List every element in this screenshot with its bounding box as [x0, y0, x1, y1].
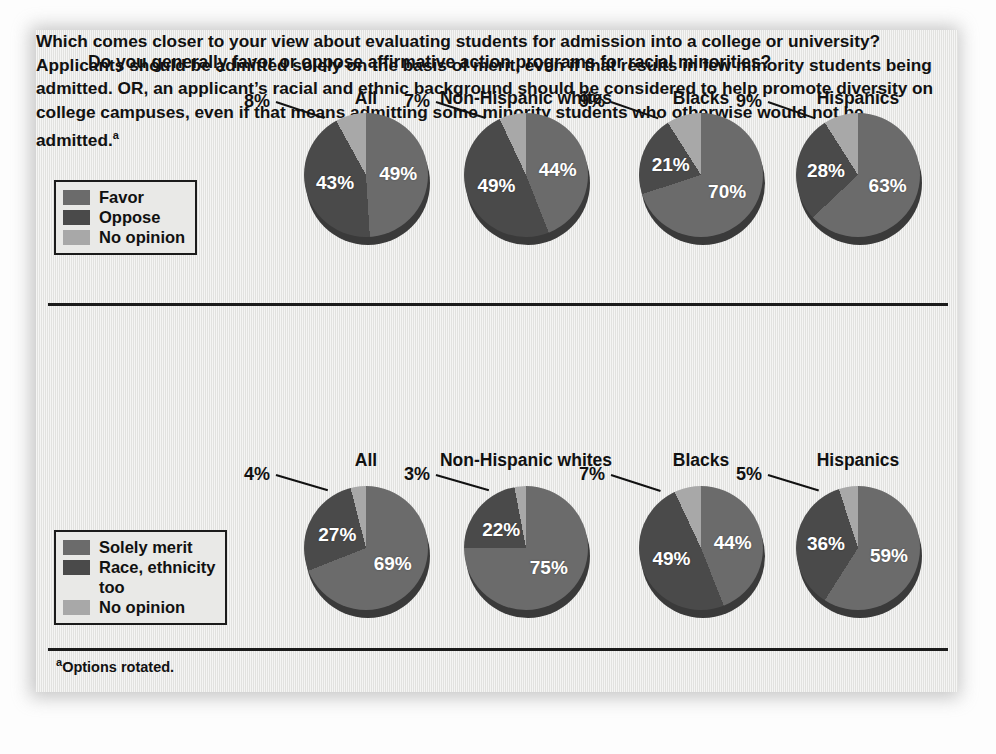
legend-admission-swatch-icon	[63, 600, 90, 615]
pie-admission-non-hispanic-whites	[464, 486, 588, 610]
pie-admission-all-no-opinion-leader-line	[276, 474, 329, 491]
pie-affirmative-hispanics-favor-value: 63%	[869, 175, 907, 197]
column-heading-all: All	[355, 88, 377, 109]
legend-affirmative-label: Oppose	[99, 208, 160, 227]
pie-admission-all-no-opinion-value: 4%	[244, 464, 270, 485]
pie-affirmative-blacks-no-opinion-value: 9%	[579, 91, 605, 112]
pie-affirmative-blacks-favor-value: 70%	[708, 181, 746, 203]
pie-affirmative-non-hispanic-whites-oppose-value: 49%	[477, 175, 515, 197]
question-1-title: Do you generally favor or oppose affirma…	[88, 52, 771, 73]
pie-affirmative-all-no-opinion-value: 8%	[244, 91, 270, 112]
legend-admission-item: too	[63, 578, 215, 597]
legend-affirmative-item: No opinion	[63, 228, 185, 247]
pie-affirmative-hispanics-no-opinion-value: 9%	[736, 91, 762, 112]
column-heading-blacks: Blacks	[673, 88, 729, 109]
pie-admission-hispanics-race-ethnicity-value: 36%	[807, 533, 845, 555]
legend-admission-swatch-icon	[63, 540, 90, 555]
pie-admission-non-hispanic-whites-no-opinion-value: 3%	[404, 464, 430, 485]
legend-affirmative-swatch-icon	[63, 190, 90, 205]
legend-admission-label: Race, ethnicity	[99, 558, 215, 577]
pie-admission-non-hispanic-whites-no-opinion-leader-line	[436, 474, 489, 491]
pie-admission-all	[304, 486, 428, 610]
pie-admission-non-hispanic-whites-disc	[464, 486, 588, 610]
pie-affirmative-all-favor-value: 49%	[379, 163, 417, 185]
figure-panel: Do you generally favor or oppose affirma…	[36, 30, 958, 692]
footnote-divider	[48, 648, 948, 651]
question-2-footnote-marker: a	[113, 129, 119, 141]
legend-admission-label: too	[99, 578, 125, 597]
page-root: Do you generally favor or oppose affirma…	[0, 0, 996, 754]
legend-admission-label: Solely merit	[99, 538, 193, 557]
pie-affirmative-all-oppose-value: 43%	[316, 172, 354, 194]
footnote-text: Options rotated.	[62, 659, 174, 675]
legend-admission-label: No opinion	[99, 598, 185, 617]
legend-college-admission: Solely meritRace, ethnicitytooNo opinion	[54, 530, 227, 625]
legend-admission-item: Solely merit	[63, 538, 215, 557]
section-divider	[48, 303, 948, 306]
legend-admission-item: Race, ethnicity	[63, 558, 215, 577]
pie-admission-all-race-ethnicity-value: 27%	[318, 524, 356, 546]
pie-affirmative-non-hispanic-whites-no-opinion-value: 7%	[404, 91, 430, 112]
legend-affirmative-swatch-icon	[63, 230, 90, 245]
footnote: aOptions rotated.	[56, 656, 174, 675]
pie-admission-non-hispanic-whites-race-ethnicity-value: 22%	[482, 519, 520, 541]
pie-admission-hispanics-no-opinion-value: 5%	[736, 464, 762, 485]
legend-affirmative-label: No opinion	[99, 228, 185, 247]
legend-affirmative-item: Favor	[63, 188, 185, 207]
pie-admission-all-disc	[304, 486, 428, 610]
pie-admission-blacks-no-opinion-leader-line	[611, 474, 661, 492]
column-heading-all: All	[355, 450, 377, 471]
pie-admission-hispanics-no-opinion-leader-line	[768, 474, 820, 491]
column-heading-hispanics: Hispanics	[817, 450, 900, 471]
pie-affirmative-blacks-oppose-value: 21%	[652, 154, 690, 176]
pie-admission-non-hispanic-whites-solely-merit-value: 75%	[530, 557, 568, 579]
column-heading-blacks: Blacks	[673, 450, 729, 471]
legend-affirmative-item: Oppose	[63, 208, 185, 227]
pie-admission-blacks-no-opinion-value: 7%	[579, 464, 605, 485]
legend-admission-swatch-icon	[63, 560, 90, 575]
pie-affirmative-hispanics-oppose-value: 28%	[807, 160, 845, 182]
legend-admission-item: No opinion	[63, 598, 215, 617]
legend-admission-swatch-icon	[63, 580, 90, 595]
column-heading-hispanics: Hispanics	[817, 88, 900, 109]
legend-affirmative-label: Favor	[99, 188, 144, 207]
legend-affirmative-action: FavorOpposeNo opinion	[54, 180, 197, 255]
pie-admission-blacks-solely-merit-value: 44%	[714, 532, 752, 554]
pie-admission-blacks-race-ethnicity-value: 49%	[652, 548, 690, 570]
pie-admission-hispanics-solely-merit-value: 59%	[870, 545, 908, 567]
pie-affirmative-non-hispanic-whites-favor-value: 44%	[539, 159, 577, 181]
legend-affirmative-swatch-icon	[63, 210, 90, 225]
pie-admission-all-solely-merit-value: 69%	[374, 553, 412, 575]
